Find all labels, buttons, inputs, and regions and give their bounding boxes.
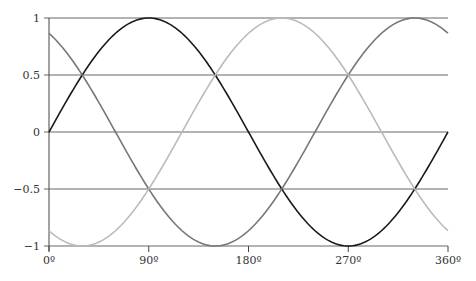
axes [49, 18, 448, 252]
x-tick-label: 270º [335, 254, 361, 267]
sine-wave-chart: 10.50−0.5−1 0º90º180º270º360º [0, 0, 476, 281]
y-axis-ticks: 10.50−0.5−1 [13, 12, 40, 253]
x-tick-label: 0º [43, 254, 55, 267]
y-tick-label: −0.5 [13, 183, 40, 196]
y-tick-label: −1 [24, 240, 40, 253]
x-tick-label: 90º [139, 254, 158, 267]
y-tick-label: 1 [33, 12, 40, 25]
x-tick-label: 180º [235, 254, 261, 267]
gridlines [44, 18, 448, 246]
x-axis-ticks: 0º90º180º270º360º [43, 254, 461, 267]
y-tick-label: 0.5 [23, 69, 41, 82]
x-tick-label: 360º [435, 254, 461, 267]
y-tick-label: 0 [33, 126, 40, 139]
